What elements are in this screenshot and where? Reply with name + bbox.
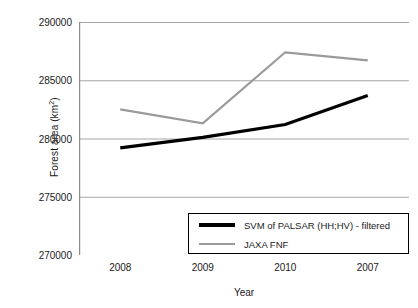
legend-swatch-icon bbox=[199, 243, 235, 245]
legend-item: SVM of PALSAR (HH;HV) - filtered bbox=[189, 215, 408, 235]
y-axis-tick-label: 275000 bbox=[20, 191, 72, 202]
legend-swatch-icon bbox=[199, 223, 235, 226]
y-axis-tick-label: 270000 bbox=[20, 250, 72, 261]
x-axis-title: Year bbox=[79, 287, 409, 298]
chart-figure: Forest area (km2) 2900002850002800002750… bbox=[0, 0, 418, 308]
y-axis-tick-label: 280000 bbox=[20, 133, 72, 144]
x-axis-tick-label: 2010 bbox=[255, 262, 315, 273]
series-line bbox=[120, 52, 368, 123]
x-axis-tick-label: 2009 bbox=[173, 262, 233, 273]
x-axis-tick-label: 2008 bbox=[90, 262, 150, 273]
legend-label: JAXA FNF bbox=[244, 239, 288, 250]
chart-legend: SVM of PALSAR (HH;HV) - filtered JAXA FN… bbox=[188, 213, 409, 254]
y-axis-tick-label: 285000 bbox=[20, 75, 72, 86]
series-lines bbox=[120, 52, 368, 148]
legend-label: SVM of PALSAR (HH;HV) - filtered bbox=[244, 220, 390, 231]
legend-item: JAXA FNF bbox=[189, 234, 408, 254]
y-axis-tick-labels: 290000285000280000275000270000 bbox=[18, 0, 72, 308]
y-axis-tick-label: 290000 bbox=[20, 17, 72, 28]
series-line bbox=[120, 95, 368, 147]
x-axis-tick-label: 2007 bbox=[338, 262, 398, 273]
